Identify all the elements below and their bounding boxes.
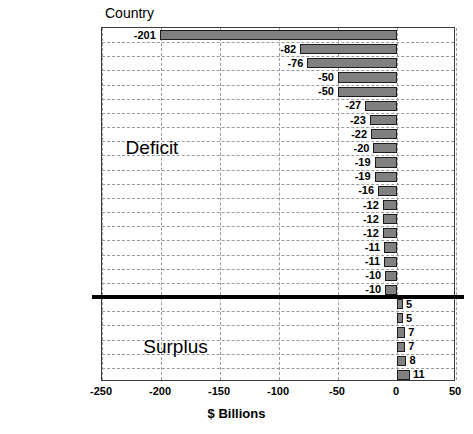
x-tick-label: -250 xyxy=(71,385,131,397)
x-tick-label: -150 xyxy=(189,385,249,397)
section-annotation-deficit: Deficit xyxy=(126,138,179,158)
x-tick-label: -100 xyxy=(248,385,308,397)
x-tick-label: -50 xyxy=(307,385,367,397)
y-axis-title: Country xyxy=(105,5,154,21)
vertical-gridline xyxy=(456,28,457,380)
plot-area: -201-82-76-50-50-27-23-22-20-19-19-16-12… xyxy=(101,27,455,381)
x-axis-title: $ Billions xyxy=(0,406,473,421)
trade-balance-bar-chart: Country -201-82-76-50-50-27-23-22-20-19-… xyxy=(0,0,473,434)
x-tick-label: -200 xyxy=(130,385,190,397)
annotations-layer: DeficitSurplus xyxy=(102,28,454,380)
x-tick-label: 50 xyxy=(425,385,473,397)
section-annotation-surplus: Surplus xyxy=(143,337,207,357)
x-tick-label: 0 xyxy=(366,385,426,397)
